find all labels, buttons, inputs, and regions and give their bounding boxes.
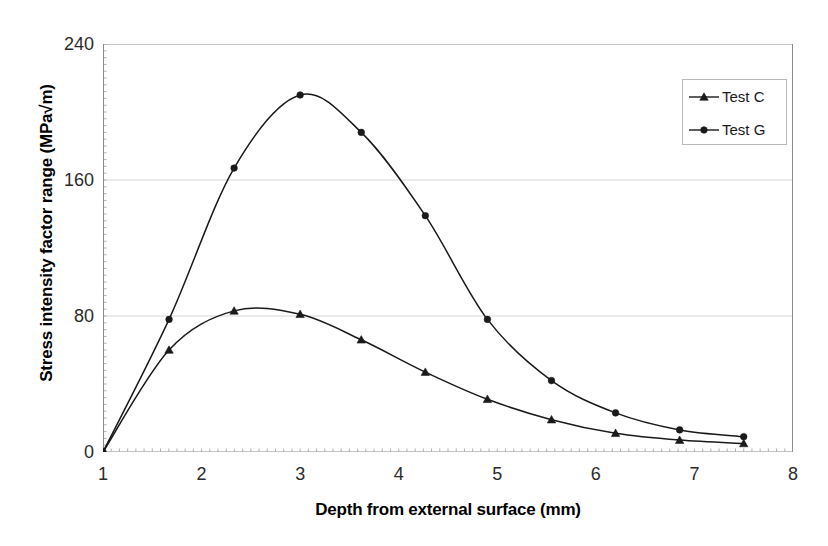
data-point-marker [484,316,491,323]
data-point-marker [421,368,429,375]
chart-figure: Stress intensity factor range (MPa√m) 08… [0,0,828,546]
x-tick-label: 5 [477,464,517,485]
x-tick-label: 6 [576,464,616,485]
x-tick-label: 7 [674,464,714,485]
x-tick-label: 3 [280,464,320,485]
data-point-marker [358,129,365,136]
y-tick-label: 0 [48,442,94,463]
data-point-marker [612,410,619,417]
y-tick-label: 80 [48,306,94,327]
series-test-c [103,307,748,452]
data-point-marker [297,92,304,99]
data-point-marker [422,212,429,219]
x-tick-label: 4 [379,464,419,485]
x-tick-label: 1 [83,464,123,485]
chart-legend: Test CTest G [682,79,787,145]
legend-entry-test-g[interactable]: Test G [683,113,788,146]
data-point-marker [701,126,708,133]
legend-label: Test G [722,121,765,138]
data-point-marker [676,427,683,434]
y-tick-label: 160 [48,170,94,191]
x-axis-title: Depth from external surface (mm) [103,500,793,520]
legend-label: Test C [722,88,765,105]
series-line [103,94,744,452]
data-point-marker [357,336,365,343]
data-point-marker [166,316,173,323]
x-tick-label: 2 [182,464,222,485]
data-point-marker [548,377,555,384]
legend-entry-test-c[interactable]: Test C [683,80,788,113]
x-tick-label-group: 12345678 [0,464,828,494]
data-point-marker [103,449,106,452]
data-point-marker [740,433,747,440]
series-line [103,308,744,452]
series-test-g [103,92,747,452]
y-tick-label: 240 [48,34,94,55]
legend-triangle-icon [687,87,721,107]
legend-circle-icon [687,120,721,140]
x-tick-label: 8 [773,464,813,485]
data-point-marker [231,165,238,172]
